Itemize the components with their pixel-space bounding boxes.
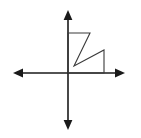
coordinate-axes-diagram: [0, 0, 141, 138]
figure-background: [0, 0, 141, 138]
figure-container: [0, 0, 141, 138]
